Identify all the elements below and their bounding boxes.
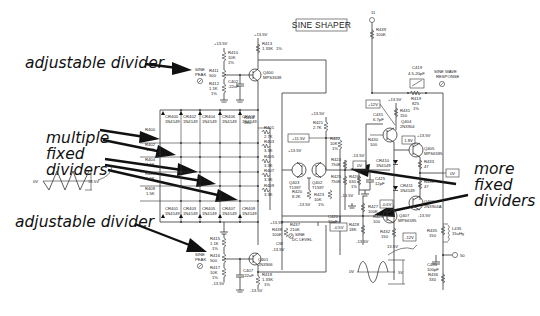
svg-text:PEAK: PEAK bbox=[195, 72, 206, 77]
output-stage: 11 R439 100K C419 4.5-20pF R419 825 1% S… bbox=[366, 10, 465, 290]
junction-dot bbox=[199, 171, 201, 173]
svg-text:R407: R407 bbox=[264, 168, 275, 173]
svg-text:-13.5V: -13.5V bbox=[298, 202, 311, 207]
diode-cr402: CR4021N4149 bbox=[179, 111, 198, 124]
inductor-l435 bbox=[448, 225, 450, 241]
resistor-r407: R4073.3K bbox=[262, 168, 275, 182]
svg-text:1.5K: 1.5K bbox=[146, 176, 155, 181]
svg-text:R401: R401 bbox=[264, 125, 275, 130]
resistor-r401: R4012.7K bbox=[262, 125, 275, 139]
resistor-r402: R4021.5K bbox=[145, 142, 156, 152]
svg-text:15uHy: 15uHy bbox=[452, 231, 465, 236]
resistor-r420 bbox=[307, 190, 311, 199]
svg-text:5V: 5V bbox=[398, 270, 403, 275]
svg-text:1N4149: 1N4149 bbox=[202, 119, 217, 124]
svg-text:1.5K: 1.5K bbox=[146, 162, 155, 167]
junction-dot bbox=[199, 156, 201, 158]
svg-text:1%: 1% bbox=[318, 202, 324, 207]
svg-text:6.7pF: 6.7pF bbox=[373, 117, 384, 122]
diode-cr405: CR4051N4149 bbox=[198, 206, 217, 218]
svg-text:2N3904: 2N3904 bbox=[400, 124, 415, 129]
arrow-head-icon bbox=[186, 238, 207, 252]
resistor-r409: R4093.3K bbox=[262, 183, 275, 197]
junction-dot bbox=[219, 156, 221, 158]
svg-text:1%: 1% bbox=[332, 146, 338, 151]
junction-dot bbox=[219, 109, 221, 111]
junction-dot bbox=[239, 185, 241, 187]
svg-text:330: 330 bbox=[429, 277, 437, 282]
resistor-r408: R4081.5K bbox=[145, 186, 156, 196]
diode-cr404: CR4041N4149 bbox=[198, 111, 217, 124]
svg-text:1.5K: 1.5K bbox=[146, 191, 155, 196]
svg-text:100K: 100K bbox=[272, 232, 282, 237]
svg-text:.22uF: .22uF bbox=[228, 84, 239, 89]
arrow-head-icon bbox=[177, 163, 198, 176]
svg-text:1%: 1% bbox=[212, 246, 218, 251]
svg-text:500: 500 bbox=[210, 258, 218, 263]
svg-text:RESPONSE: RESPONSE bbox=[436, 74, 459, 79]
svg-text:3.3K: 3.3K bbox=[264, 148, 273, 153]
bottom-peak-network: R415 1.1K 1% R416 500 R417 10K 1% -13.5V… bbox=[195, 222, 254, 292]
diode-cr400: CR4001N4149 bbox=[161, 111, 180, 124]
annotation-multiple-fixed: multiple fixed dividers bbox=[46, 129, 238, 202]
svg-text:1%: 1% bbox=[413, 106, 419, 111]
resistor-r417 bbox=[222, 268, 226, 277]
junction-dot bbox=[219, 185, 221, 187]
schematic-canvas: SINE SHAPER adjustable divider multiple … bbox=[0, 0, 540, 316]
junction-dot bbox=[199, 221, 201, 223]
junction-dot bbox=[239, 109, 241, 111]
svg-text:0V: 0V bbox=[450, 171, 455, 176]
junction-dot bbox=[239, 221, 241, 223]
junction-dot bbox=[257, 200, 259, 202]
junction-dot bbox=[257, 221, 259, 223]
junction-dot bbox=[180, 109, 182, 111]
junction-dot bbox=[239, 142, 241, 144]
junction-dot bbox=[257, 109, 259, 111]
svg-text:1%: 1% bbox=[228, 60, 234, 65]
arrow-head-icon bbox=[172, 62, 192, 75]
svg-text:+11.5V: +11.5V bbox=[292, 136, 305, 141]
svg-text:13.5V: 13.5V bbox=[387, 244, 398, 249]
output-waveform: 0V 5V bbox=[349, 245, 417, 284]
svg-text:-13.5V: -13.5V bbox=[272, 247, 285, 252]
junction-dot bbox=[180, 200, 182, 202]
svg-text:100: 100 bbox=[370, 142, 378, 147]
svg-text:4.5-20pF: 4.5-20pF bbox=[408, 71, 425, 76]
junction-dot bbox=[219, 200, 221, 202]
junction-dot bbox=[219, 221, 221, 223]
resistor-r406: R4061.5K bbox=[145, 171, 156, 181]
sine-shaper-schematic: SINE SHAPER adjustable divider multiple … bbox=[0, 0, 540, 316]
svg-text:R403: R403 bbox=[264, 139, 275, 144]
diode-ladder: CR4001N4149CR4021N4149CR4041N4149CR4061N… bbox=[140, 109, 275, 245]
junction-dot bbox=[239, 200, 241, 202]
transistor-q403 bbox=[292, 163, 306, 177]
arrow-line bbox=[105, 159, 182, 170]
title-box: SINE SHAPER bbox=[292, 19, 351, 31]
junction-dot bbox=[257, 185, 259, 187]
resistor-r415 bbox=[222, 238, 226, 247]
junction-dot bbox=[257, 171, 259, 173]
diode-cr407: CR4071N4149 bbox=[218, 206, 237, 218]
svg-text:0V: 0V bbox=[33, 179, 38, 184]
annotation-text: adjustable divider bbox=[15, 213, 156, 231]
svg-text:-13.5V: -13.5V bbox=[356, 239, 369, 244]
junction-dot bbox=[199, 200, 201, 202]
svg-text:47: 47 bbox=[424, 184, 429, 189]
svg-text:R409: R409 bbox=[264, 183, 275, 188]
svg-text:2N3904A: 2N3904A bbox=[424, 204, 442, 209]
svg-text:1%: 1% bbox=[276, 46, 282, 51]
svg-text:13.5V: 13.5V bbox=[88, 179, 99, 184]
svg-text:R400: R400 bbox=[145, 127, 156, 132]
junction-dot bbox=[180, 171, 182, 173]
svg-text:-0.5V: -0.5V bbox=[333, 225, 343, 230]
svg-text:1N4149: 1N4149 bbox=[222, 211, 237, 216]
svg-text:-13.5V: -13.5V bbox=[212, 281, 225, 286]
svg-text:+13.5V: +13.5V bbox=[417, 133, 431, 138]
resistor-r410 bbox=[222, 52, 226, 61]
svg-text:500: 500 bbox=[209, 73, 217, 78]
svg-text:1%: 1% bbox=[351, 184, 357, 189]
svg-text:-13.5V: -13.5V bbox=[250, 288, 263, 293]
svg-text:330: 330 bbox=[244, 120, 252, 125]
svg-text:8.2K: 8.2K bbox=[292, 194, 301, 199]
svg-text:100: 100 bbox=[373, 219, 381, 224]
